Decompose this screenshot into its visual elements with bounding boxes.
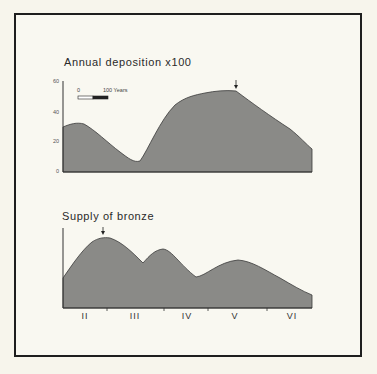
top-peak-arrow-icon xyxy=(234,80,238,89)
bottom-peak-arrow-icon xyxy=(101,227,105,235)
scale-bar xyxy=(78,96,108,99)
charts-graphic xyxy=(0,0,377,374)
bronze-supply-area xyxy=(63,238,312,308)
deposition-area xyxy=(63,91,312,172)
